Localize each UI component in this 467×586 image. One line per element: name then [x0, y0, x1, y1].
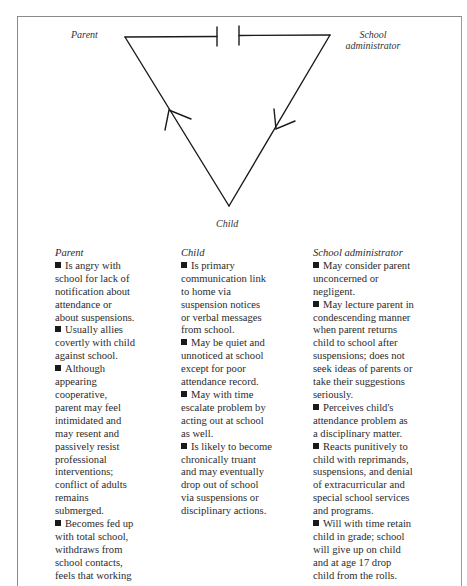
- column-line: professional: [55, 454, 173, 467]
- column-line: may resent and: [55, 428, 173, 441]
- node-label-parent: Parent: [71, 29, 98, 40]
- column-line: passively resist: [55, 441, 173, 454]
- column-line: as well.: [181, 428, 311, 441]
- column-line: Is likely to become: [181, 441, 311, 454]
- bullet-icon: [313, 404, 319, 410]
- edge-child-parent: [125, 37, 229, 206]
- column-line: attendance record.: [181, 376, 311, 389]
- column-line: covertly with child: [55, 337, 173, 350]
- bullet-icon: [313, 520, 319, 526]
- column-line: submerged.: [55, 505, 173, 518]
- column-line: May with time: [181, 389, 311, 402]
- column-line: will give up on child: [313, 544, 463, 557]
- column-line: withdraws from: [55, 544, 173, 557]
- bullet-icon: [55, 262, 61, 268]
- column-line: seriously.: [313, 389, 463, 402]
- column-line: Will with time retain: [313, 518, 463, 531]
- node-label-school: School: [340, 29, 406, 40]
- column-line: from school.: [181, 324, 311, 337]
- column-line: feels that working: [55, 570, 173, 583]
- bullet-icon: [181, 391, 187, 397]
- bullet-icon: [181, 443, 187, 449]
- column-line: Usually allies: [55, 324, 173, 337]
- column-line: Reacts punitively to: [313, 441, 463, 454]
- edge-parent-admin-right: [239, 35, 330, 36]
- column-line: Although: [55, 363, 173, 376]
- column-line: take their suggestions: [313, 376, 463, 389]
- column-line: acting out at school: [181, 415, 311, 428]
- column-line: negligent.: [313, 286, 463, 299]
- edge-parent-admin-left: [125, 37, 217, 38]
- column-line: with total school,: [55, 531, 173, 544]
- column-line: child with reprimands,: [313, 454, 463, 467]
- column-line: interventions;: [55, 466, 173, 479]
- column-line: parent may feel: [55, 402, 173, 415]
- column-line: and may eventually: [181, 466, 311, 479]
- column-line: suspensions, and denial: [313, 466, 463, 479]
- column-line: disciplinary actions.: [181, 505, 311, 518]
- column-line: and at age 17 drop: [313, 557, 463, 570]
- edge-admin-child: [229, 35, 330, 206]
- column-line: special school services: [313, 492, 463, 505]
- column-line: and programs.: [313, 505, 463, 518]
- column-line: May be quiet and: [181, 337, 311, 350]
- column-line: May lecture parent in: [313, 299, 463, 312]
- column-line: school contacts,: [55, 557, 173, 570]
- bullet-icon: [313, 301, 319, 307]
- column-line: unnoticed at school: [181, 350, 311, 363]
- column-child: Child Is primary communication link to h…: [181, 247, 311, 518]
- column-line: attendance or: [55, 299, 173, 312]
- bullet-icon: [313, 443, 319, 449]
- column-heading: Parent: [55, 247, 173, 260]
- column-line: conflict of adults: [55, 479, 173, 492]
- column-line: via suspensions or: [181, 492, 311, 505]
- column-line: suspension notices: [181, 299, 311, 312]
- bullet-icon: [181, 262, 187, 268]
- column-line: appearing: [55, 376, 173, 389]
- column-line: remains: [55, 492, 173, 505]
- bullet-icon: [55, 520, 61, 526]
- bullet-icon: [313, 262, 319, 268]
- column-line: Becomes fed up: [55, 518, 173, 531]
- column-line: May consider parent: [313, 260, 463, 273]
- column-heading: School administrator: [313, 247, 463, 260]
- node-label-administrator: administrator: [340, 40, 406, 51]
- column-line: child in grade; school: [313, 531, 463, 544]
- column-line: a disciplinary matter.: [313, 428, 463, 441]
- column-line: Is angry with: [55, 260, 173, 273]
- column-line: except for poor: [181, 363, 311, 376]
- column-line: of extracurricular and: [313, 479, 463, 492]
- node-label-school-administrator: School administrator: [340, 29, 406, 51]
- column-line: to home via: [181, 286, 311, 299]
- column-line: school for lack of: [55, 273, 173, 286]
- bullet-icon: [55, 326, 61, 332]
- column-line: cooperative,: [55, 389, 173, 402]
- column-school-administrator: School administrator May consider parent…: [313, 247, 463, 583]
- column-line: Perceives child's: [313, 402, 463, 415]
- column-line: child to school after: [313, 337, 463, 350]
- bullet-icon: [55, 365, 61, 371]
- column-line: intimidated and: [55, 415, 173, 428]
- column-heading: Child: [181, 247, 311, 260]
- node-label-child: Child: [216, 218, 238, 229]
- column-line: notification about: [55, 286, 173, 299]
- column-line: child from the rolls.: [313, 570, 463, 583]
- column-line: unconcerned or: [313, 273, 463, 286]
- column-line: drop out of school: [181, 479, 311, 492]
- column-line: against school.: [55, 350, 173, 363]
- column-line: suspensions; does not: [313, 350, 463, 363]
- column-parent: Parent Is angry with school for lack of …: [55, 247, 173, 583]
- column-line: communication link: [181, 273, 311, 286]
- column-line: attendance problem as: [313, 415, 463, 428]
- column-line: about suspensions.: [55, 312, 173, 325]
- column-line: condescending manner: [313, 312, 463, 325]
- column-line: escalate problem by: [181, 402, 311, 415]
- column-line: seek ideas of parents or: [313, 363, 463, 376]
- arrowhead-toward-parent: [165, 110, 191, 130]
- column-line: chronically truant: [181, 454, 311, 467]
- column-line: when parent returns: [313, 324, 463, 337]
- bullet-icon: [181, 339, 187, 345]
- column-line: or verbal messages: [181, 312, 311, 325]
- column-line: Is primary: [181, 260, 311, 273]
